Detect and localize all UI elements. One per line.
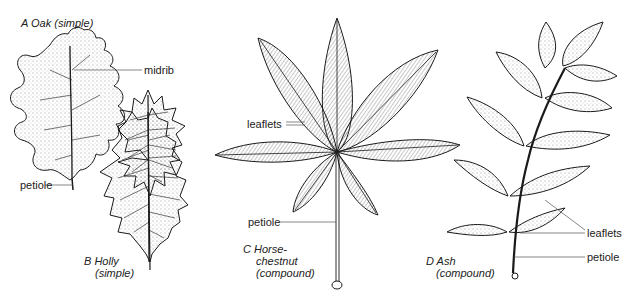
label-horse-leaflets: leaflets	[247, 118, 282, 130]
caption-horse-chestnut: C Horse- chestnut (compound)	[243, 243, 315, 279]
caption-ash: D Ash (compound)	[426, 255, 495, 279]
label-ash-leaflets: leaflets	[587, 227, 622, 239]
caption-holly-line-1: B Holly	[84, 255, 134, 267]
caption-horse-line-2: chestnut	[243, 255, 315, 267]
leaf-illustrations	[0, 0, 636, 295]
label-ash-petiole: petiole	[587, 251, 619, 263]
caption-ash-line-1: D Ash	[426, 255, 495, 267]
label-oak-petiole: petiole	[20, 179, 52, 191]
caption-holly: B Holly (simple)	[84, 255, 134, 279]
caption-horse-line-3: (compound)	[243, 267, 315, 279]
caption-oak: A Oak (simple)	[21, 17, 93, 29]
caption-ash-line-2: (compound)	[426, 267, 495, 279]
oak-leaf	[11, 27, 125, 190]
label-horse-petiole: petiole	[248, 216, 280, 228]
caption-holly-line-2: (simple)	[84, 267, 134, 279]
label-oak-midrib: midrib	[144, 64, 174, 76]
ash-leaf	[447, 22, 617, 279]
caption-horse-line-1: C Horse-	[243, 243, 315, 255]
caption-oak-line: A Oak (simple)	[21, 17, 93, 29]
